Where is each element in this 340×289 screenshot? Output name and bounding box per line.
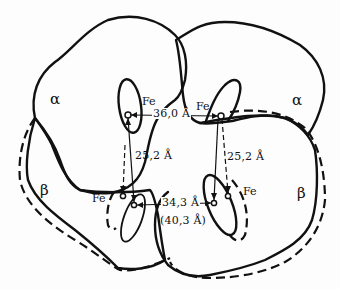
- label-fe-alpha-left: Fe: [142, 96, 156, 107]
- beta-left-heme-dashed: [107, 192, 116, 229]
- distance-alpha-beta-left: 25,2 Å: [135, 150, 172, 161]
- arrowhead: [131, 112, 137, 118]
- label-fe-beta-left: Fe: [92, 193, 106, 204]
- arrowhead: [212, 113, 218, 119]
- arrow-alpha-beta-right: [214, 119, 218, 200]
- distance-beta-beta-alt: (40,3 Å): [160, 215, 206, 226]
- fe-alpha-left-atom: [125, 112, 131, 118]
- distance-alpha-beta-right: 25,2 Å: [227, 151, 264, 162]
- hemoglobin-diagram: α α β β Fe Fe Fe Fe 36,0 Å 25,2 Å 25,2 Å…: [0, 0, 340, 289]
- diagram-drawing: [0, 0, 340, 289]
- fe-beta-left-atom-b: [131, 202, 136, 207]
- label-beta-left: β: [40, 183, 49, 198]
- label-fe-alpha-right: Fe: [196, 101, 210, 112]
- fe-beta-left-atom-a: [120, 193, 125, 198]
- arrow-alpha-beta-left: [128, 118, 134, 202]
- arrowhead: [125, 118, 131, 125]
- label-alpha-left: α: [50, 92, 60, 107]
- fe-beta-right-atom-b: [225, 193, 230, 198]
- label-fe-beta-right: Fe: [243, 186, 257, 197]
- arrow-alpha-beta-left-dashed: [123, 145, 125, 193]
- label-beta-right: β: [297, 186, 306, 201]
- fe-alpha-right-atom: [218, 113, 224, 119]
- distance-beta-beta: 34,3 Å: [161, 197, 200, 208]
- alpha-right-outline: [176, 22, 324, 135]
- label-alpha-right: α: [292, 93, 302, 108]
- beta-right-heme: [197, 171, 243, 239]
- arrowhead: [137, 202, 143, 208]
- arrowhead: [211, 193, 217, 200]
- alpha-left-heme: [115, 78, 144, 135]
- fe-beta-right-atom-a: [211, 200, 216, 205]
- distance-alpha-alpha: 36,0 Å: [152, 108, 191, 119]
